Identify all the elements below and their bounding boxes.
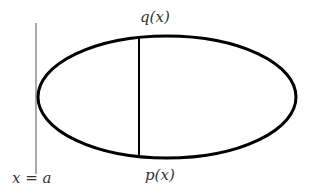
upper-curve-label: q(x) xyxy=(140,10,170,25)
lower-curve-label: p(x) xyxy=(145,168,175,183)
closed-region-ellipse xyxy=(38,36,296,158)
boundary-line-label: x = a xyxy=(12,171,52,186)
region-diagram: q(x) p(x) x = a xyxy=(0,0,318,195)
